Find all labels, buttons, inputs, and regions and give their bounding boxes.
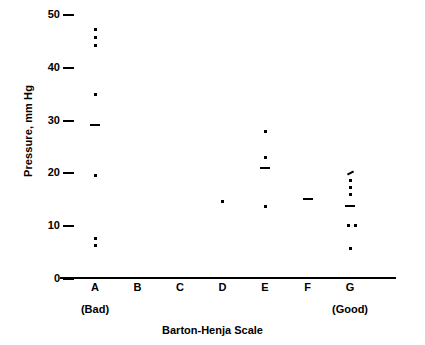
- data-point: [94, 93, 97, 96]
- x-tick-label-G: G: [335, 281, 365, 293]
- median-marker: [260, 167, 270, 169]
- data-point: [354, 224, 357, 227]
- x-tick-label-D: D: [208, 281, 238, 293]
- y-tick-mark-30: [63, 120, 74, 122]
- data-point: [349, 186, 352, 189]
- y-tick-label-50: 50: [26, 7, 60, 21]
- y-axis-title: Pressure, mm Hg: [22, 51, 34, 211]
- y-tick-label-10: 10: [26, 218, 60, 232]
- data-point: [221, 200, 224, 203]
- y-tick-mark-10: [63, 225, 74, 227]
- data-point: [94, 174, 97, 177]
- x-tick-label-B: B: [123, 281, 153, 293]
- y-tick-label-40: 40: [26, 60, 60, 74]
- data-point: [349, 179, 352, 182]
- data-point: [347, 224, 350, 227]
- data-point: [349, 247, 352, 250]
- y-tick-label-20: 20: [26, 165, 60, 179]
- data-point: [94, 244, 97, 247]
- data-point: [346, 171, 353, 176]
- x-tick-label-E: E: [250, 281, 280, 293]
- x-tick-sublabel-A: (Bad): [65, 303, 125, 315]
- data-point: [264, 156, 267, 159]
- median-marker: [90, 124, 100, 126]
- x-axis-title: Barton-Henja Scale: [0, 324, 425, 336]
- data-point: [94, 44, 97, 47]
- data-point: [264, 205, 267, 208]
- x-tick-label-F: F: [293, 281, 323, 293]
- x-tick-label-A: A: [80, 281, 110, 293]
- y-tick-mark-20: [63, 172, 74, 174]
- y-tick-label-30: 30: [26, 113, 60, 127]
- x-tick-label-C: C: [165, 281, 195, 293]
- data-point: [94, 237, 97, 240]
- median-marker: [345, 205, 355, 207]
- data-point: [349, 193, 352, 196]
- y-tick-label-0: 0: [26, 271, 60, 285]
- dot-plot-figure: Pressure, mm Hg 50403020100 A(Bad)BCDEFG…: [0, 0, 425, 345]
- y-tick-mark-40: [63, 67, 74, 69]
- data-point: [264, 130, 267, 133]
- median-marker: [303, 198, 313, 200]
- data-point: [94, 28, 97, 31]
- x-axis-line: [60, 277, 396, 279]
- data-point: [94, 36, 97, 39]
- y-tick-mark-50: [63, 14, 74, 16]
- x-tick-sublabel-G: (Good): [320, 303, 380, 315]
